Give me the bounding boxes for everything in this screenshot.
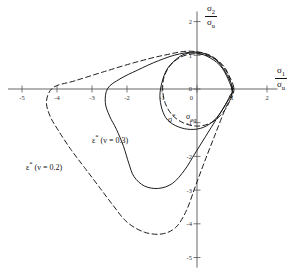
- figure-container: -5-4-3-2-112210-1-2-3-4-50 σ2 σu σ1 σu σ…: [0, 0, 302, 280]
- stress-space-plot: -5-4-3-2-112210-1-2-3-4-50: [0, 0, 302, 280]
- y-axis-label-denominator: σu: [205, 18, 217, 30]
- y-axis-tick-label: -2: [187, 153, 192, 160]
- y-axis-tick-label: -5: [187, 254, 192, 261]
- sigma-star-label: σ*: [168, 112, 176, 124]
- x-axis-tick-label: 2: [265, 94, 268, 101]
- y-axis-label-numerator: σ2: [205, 4, 217, 16]
- y-axis-tick-label: -4: [187, 220, 193, 227]
- sigma-eq-label: σeq: [186, 112, 196, 123]
- x-axis-tick-label: -4: [54, 94, 60, 101]
- x-axis-label-numerator: σ1: [275, 66, 287, 78]
- x-axis-tick-label: -3: [89, 94, 94, 101]
- y-axis-tick-label: 0: [189, 85, 192, 92]
- origin-tick-label: 0: [190, 94, 193, 101]
- epsilon-nu-02-label: ε* (ν = 0.2): [26, 160, 62, 172]
- y-axis-label: σ2 σu: [205, 4, 217, 29]
- y-axis-tick-label: -3: [187, 187, 192, 194]
- curve-epsilon-nu-0-2-: [46, 51, 234, 234]
- x-axis-label: σ1 σu: [275, 66, 287, 91]
- epsilon-nu-03-label: ε* (ν = 0.3): [92, 133, 128, 145]
- x-axis-tick-label: -2: [124, 94, 129, 101]
- x-axis-tick-label: -5: [19, 94, 24, 101]
- y-axis-tick-label: 2: [189, 18, 192, 25]
- x-axis-label-denominator: σu: [275, 80, 287, 92]
